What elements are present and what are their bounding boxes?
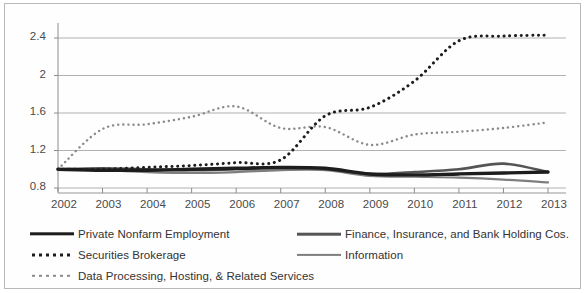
legend-swatch-icon <box>30 270 74 282</box>
legend-swatch-icon <box>30 249 74 261</box>
legend-item-label: Data Processing, Hosting, & Related Serv… <box>78 268 314 284</box>
legend-swatch-icon <box>30 228 74 240</box>
legend-item[interactable]: Securities Brokerage <box>30 247 186 263</box>
legend-item-label: Information <box>345 247 403 263</box>
x-axis-tick-label: 2004 <box>131 198 175 210</box>
series-line <box>58 35 548 169</box>
legend-item-label: Private Nonfarm Employment <box>78 226 230 242</box>
x-axis-tick-label: 2006 <box>220 198 264 210</box>
y-axis-tick-label: 1.6 <box>12 105 46 117</box>
x-axis-tick-label: 2003 <box>87 198 131 210</box>
legend-item[interactable]: Information <box>297 247 403 263</box>
y-axis-tick-label: 2 <box>12 68 46 80</box>
y-axis-tick-label: 0.8 <box>12 180 46 192</box>
x-axis-tick-label: 2013 <box>532 198 576 210</box>
x-axis-tick-label: 2012 <box>487 198 531 210</box>
y-axis-tick-label: 1.2 <box>12 143 46 155</box>
x-axis-tick-label: 2008 <box>309 198 353 210</box>
legend-item[interactable]: Private Nonfarm Employment <box>30 226 230 242</box>
x-axis-tick-label: 2002 <box>42 198 86 210</box>
y-axis-tick-label: 2.4 <box>12 30 46 42</box>
x-axis-tick-label: 2011 <box>443 198 487 210</box>
chart-legend: Private Nonfarm EmploymentFinance, Insur… <box>0 224 585 290</box>
x-axis-tick-label: 2009 <box>354 198 398 210</box>
legend-item[interactable]: Finance, Insurance, and Bank Holding Cos… <box>297 226 569 242</box>
x-axis-tick-label: 2007 <box>265 198 309 210</box>
legend-swatch-icon <box>297 228 341 240</box>
legend-item-label: Securities Brokerage <box>78 247 186 263</box>
x-axis-tick-label: 2005 <box>176 198 220 210</box>
legend-item-label: Finance, Insurance, and Bank Holding Cos… <box>345 226 569 242</box>
legend-swatch-icon <box>297 249 341 261</box>
x-axis-tick-label: 2010 <box>398 198 442 210</box>
chart-figure: 0.81.21.622.4 20022003200420052006200720… <box>0 0 585 293</box>
legend-item[interactable]: Data Processing, Hosting, & Related Serv… <box>30 268 314 284</box>
